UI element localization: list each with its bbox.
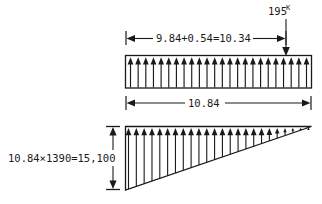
load-arrow-head-icon (267, 128, 273, 135)
load-arrow-head-icon (304, 57, 310, 64)
triangular-load-block (126, 127, 312, 191)
beam-load-diagram-svg: 195 K 9.84+0.54=10.34 (0, 0, 322, 204)
load-arrow-head-icon (259, 128, 265, 135)
load-arrow-head-icon (180, 128, 186, 135)
load-arrow-head-icon (265, 57, 271, 64)
load-arrow-head-icon (250, 57, 256, 64)
load-arrow-head-icon (174, 57, 180, 64)
span-dimension-label: 10.84 (188, 97, 220, 109)
load-arrow-head-icon (204, 57, 210, 64)
load-arrow-head-icon (181, 57, 187, 64)
load-arrow-head-icon (157, 128, 163, 135)
load-arrow-head-icon (283, 128, 286, 132)
load-arrow-head-icon (149, 128, 155, 135)
load-arrow-head-icon (220, 128, 226, 135)
load-arrow-head-icon (243, 128, 249, 135)
load-arrow-head-icon (273, 57, 279, 64)
load-arrow-head-icon (251, 128, 257, 135)
load-arrow-head-icon (219, 57, 225, 64)
load-arrow-head-icon (227, 128, 233, 135)
load-arrow-head-icon (299, 128, 302, 130)
load-arrow-head-icon (288, 57, 294, 64)
load-arrow-head-icon (158, 57, 164, 64)
load-arrow-head-icon (275, 128, 279, 134)
load-arrow-head-icon (188, 128, 194, 135)
load-arrow-head-icon (126, 128, 132, 135)
load-arrow-head-icon (235, 57, 241, 64)
load-arrow-head-icon (296, 57, 302, 64)
diagram-canvas: 195 K 9.84+0.54=10.34 (0, 0, 322, 204)
load-arrow-head-icon (258, 57, 264, 64)
load-arrow-head-icon (291, 128, 294, 131)
load-arrow-head-icon (235, 128, 241, 135)
point-load-unit: K (286, 4, 291, 12)
load-arrow-head-icon (141, 128, 147, 135)
load-arrow-head-icon (242, 57, 248, 64)
load-arrow-head-icon (151, 57, 157, 64)
load-arrow-head-icon (173, 128, 179, 135)
load-arrow-head-icon (143, 57, 149, 64)
load-arrow-head-icon (212, 128, 218, 135)
load-arrow-head-icon (133, 128, 139, 135)
load-arrow-head-icon (281, 57, 287, 64)
load-arrow-head-icon (227, 57, 233, 64)
upper-dimension-label: 9.84+0.54=10.34 (156, 32, 251, 44)
load-arrow-head-icon (166, 57, 172, 64)
height-dimension-label: 10.84×1390=15,100 (8, 152, 115, 164)
load-arrow-head-icon (165, 128, 171, 135)
load-arrow-head-icon (128, 57, 134, 64)
load-arrow-head-icon (135, 57, 141, 64)
load-arrow-head-icon (189, 57, 195, 64)
uniform-load-arrows (128, 57, 310, 87)
load-arrow-head-icon (212, 57, 218, 64)
load-arrow-head-icon (204, 128, 210, 135)
load-arrow-head-icon (196, 57, 202, 64)
load-arrow-head-icon (196, 128, 202, 135)
point-load-value: 195 (268, 5, 287, 17)
